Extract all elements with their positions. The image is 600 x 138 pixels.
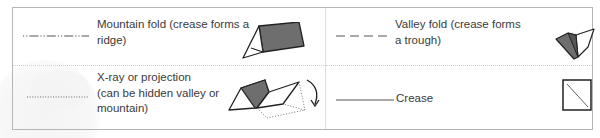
crease-square-icon bbox=[562, 79, 592, 111]
mountain-fold-label-line-1: Mountain fold (crease forms a bbox=[97, 17, 249, 33]
crease-label: Crease bbox=[396, 91, 433, 107]
mountain-fold-icon bbox=[241, 22, 307, 60]
crease-line-sample bbox=[336, 98, 394, 102]
valley-fold-label-line-1: Valley fold (crease forms bbox=[395, 17, 521, 33]
crease-label-line-1: Crease bbox=[396, 91, 433, 107]
valley-fold-label: Valley fold (crease forms a trough) bbox=[395, 17, 521, 48]
valley-fold-line-sample bbox=[336, 34, 392, 38]
mountain-fold-label: Mountain fold (crease forms a ridge) bbox=[97, 17, 249, 48]
xray-label-line-2: (can be hidden valley or bbox=[97, 86, 219, 102]
mountain-fold-label-line-2: ridge) bbox=[97, 33, 249, 49]
xray-label: X-ray or projection (can be hidden valle… bbox=[97, 70, 219, 117]
xray-line-sample bbox=[27, 95, 89, 99]
legend-cell-valley-fold: Valley fold (crease forms a trough) bbox=[326, 8, 592, 66]
legend-cell-mountain-fold: Mountain fold (crease forms a ridge) bbox=[13, 8, 326, 66]
legend-cell-xray-projection: X-ray or projection (can be hidden valle… bbox=[13, 66, 326, 129]
valley-fold-label-line-2: a trough) bbox=[395, 33, 521, 49]
xray-fold-icon bbox=[227, 70, 323, 126]
mountain-fold-line-sample bbox=[23, 34, 89, 38]
valley-fold-icon bbox=[554, 25, 598, 61]
fold-symbol-legend: Mountain fold (crease forms a ridge) Val… bbox=[12, 7, 593, 130]
xray-label-line-3: mountain) bbox=[97, 101, 219, 117]
legend-cell-crease: Crease bbox=[326, 66, 592, 129]
xray-label-line-1: X-ray or projection bbox=[97, 70, 219, 86]
